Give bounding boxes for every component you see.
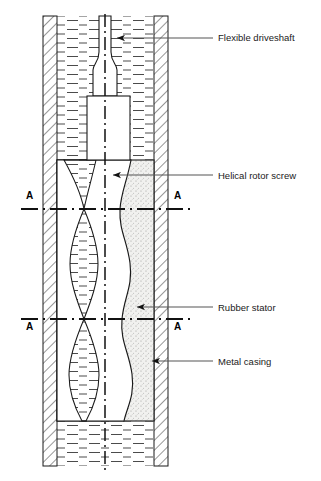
section-a-lower-right: A: [174, 321, 181, 332]
section-a-lower-left: A: [26, 321, 33, 332]
callout-label-helical-rotor-screw: Helical rotor screw: [218, 170, 296, 181]
diagram-canvas: A A A A Flexible driveshaft Helical roto…: [0, 0, 321, 481]
progressive-cavity-pump-diagram: A A A A Flexible driveshaft Helical roto…: [0, 0, 321, 481]
driveshaft-coupling-block: [87, 96, 130, 160]
callout-label-flexible-driveshaft: Flexible driveshaft: [218, 32, 295, 43]
section-a-upper-right: A: [174, 190, 181, 201]
callout-label-metal-casing: Metal casing: [218, 356, 271, 367]
callout-label-rubber-stator: Rubber stator: [218, 302, 276, 313]
section-a-upper-left: A: [26, 190, 33, 201]
